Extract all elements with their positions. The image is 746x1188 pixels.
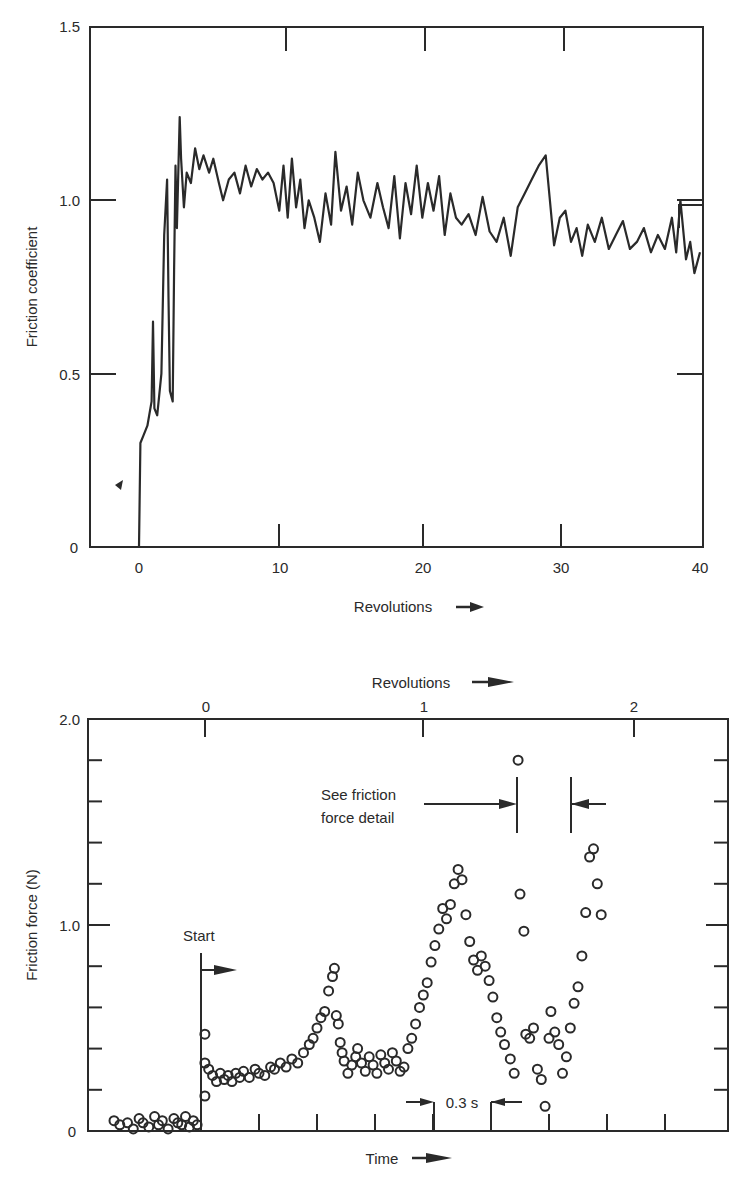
top-plot-frame bbox=[90, 27, 703, 547]
scatter-marker bbox=[577, 951, 586, 960]
scatter-marker bbox=[574, 982, 583, 991]
scatter-marker bbox=[597, 910, 606, 919]
top-x-tick-0: 0 bbox=[135, 559, 143, 576]
top-x-ticks bbox=[279, 27, 564, 547]
scatter-marker bbox=[492, 1013, 501, 1022]
top-x-tick-40: 40 bbox=[692, 559, 709, 576]
scatter-marker bbox=[550, 1028, 559, 1037]
scatter-marker bbox=[442, 914, 451, 923]
scatter-marker bbox=[566, 1024, 575, 1033]
scatter-marker bbox=[446, 900, 455, 909]
bottom-y-tick-1.0: 1.0 bbox=[59, 917, 80, 934]
bottom-rev-axis-label: Revolutions bbox=[372, 674, 450, 691]
detail-arrow-right-icon bbox=[499, 799, 517, 809]
scatter-marker bbox=[313, 1024, 322, 1033]
friction-coefficient-chart: 1.5 1.0 0.5 0 0 10 20 30 40 Friction coe… bbox=[23, 18, 708, 615]
scatter-marker bbox=[411, 1019, 420, 1028]
bottom-time-ticks bbox=[259, 1114, 665, 1131]
scatter-marker bbox=[500, 1040, 509, 1049]
top-x-arrow-icon bbox=[456, 602, 484, 612]
scatter-marker bbox=[485, 976, 494, 985]
scatter-marker bbox=[427, 958, 436, 967]
figure-canvas: 1.5 1.0 0.5 0 0 10 20 30 40 Friction coe… bbox=[0, 0, 746, 1188]
start-arrow-icon bbox=[201, 965, 237, 975]
scatter-marker bbox=[403, 1044, 412, 1053]
bottom-rev-tick-0: 0 bbox=[202, 698, 210, 715]
scatter-marker bbox=[334, 1019, 343, 1028]
scatter-marker bbox=[164, 1124, 173, 1133]
origin-marker-icon bbox=[115, 480, 123, 490]
scatter-marker bbox=[554, 1040, 563, 1049]
start-label: Start bbox=[183, 927, 216, 944]
scatter-marker bbox=[430, 941, 439, 950]
scatter-marker bbox=[245, 1073, 254, 1082]
scatter-marker bbox=[514, 756, 523, 765]
scatter-marker bbox=[481, 962, 490, 971]
bottom-rev-tick-2: 2 bbox=[630, 698, 638, 715]
top-x-tick-20: 20 bbox=[415, 559, 432, 576]
top-y-tick-1.0: 1.0 bbox=[59, 192, 80, 209]
scatter-marker bbox=[407, 1034, 416, 1043]
scatter-marker bbox=[519, 927, 528, 936]
top-y-tick-0.5: 0.5 bbox=[59, 366, 80, 383]
detail-label-line1: See friction bbox=[321, 786, 396, 803]
scatter-marker bbox=[570, 999, 579, 1008]
scatter-marker bbox=[510, 1069, 519, 1078]
top-x-axis-label: Revolutions bbox=[354, 598, 432, 615]
scatter-marker bbox=[477, 951, 486, 960]
scatter-marker bbox=[454, 865, 463, 874]
scatter-marker bbox=[372, 1069, 381, 1078]
detail-arrow-left-icon bbox=[571, 799, 589, 809]
bottom-top-ticks bbox=[205, 719, 634, 737]
scatter-marker bbox=[589, 844, 598, 853]
bottom-y-tick-2.0: 2.0 bbox=[59, 711, 80, 728]
scatter-marker bbox=[558, 1069, 567, 1078]
time-arrow-icon bbox=[412, 1153, 452, 1163]
friction-force-chart: 2.0 1.0 0 0 1 2 Revolutions Friction for… bbox=[23, 674, 728, 1167]
bottom-y-axis-label: Friction force (N) bbox=[23, 869, 40, 981]
scatter-marker bbox=[458, 875, 467, 884]
top-y-tick-1.5: 1.5 bbox=[59, 18, 80, 35]
scatter-marker bbox=[434, 925, 443, 934]
scatter-marker bbox=[260, 1071, 269, 1080]
rev-arrow-icon bbox=[472, 677, 514, 687]
scatter-marker bbox=[423, 978, 432, 987]
scatter-marker bbox=[299, 1048, 308, 1057]
bottom-rev-tick-1: 1 bbox=[420, 698, 428, 715]
scatter-marker bbox=[129, 1124, 138, 1133]
scatter-marker bbox=[546, 1007, 555, 1016]
top-y-tick-0: 0 bbox=[70, 539, 78, 556]
top-x-tick-10: 10 bbox=[272, 559, 289, 576]
scatter-marker bbox=[529, 1024, 538, 1033]
scatter-marker bbox=[415, 1003, 424, 1012]
top-y-ticks bbox=[90, 200, 703, 374]
interval-label: 0.3 s bbox=[446, 1094, 479, 1111]
scatter-marker bbox=[488, 993, 497, 1002]
scatter-marker bbox=[496, 1028, 505, 1037]
scatter-marker bbox=[419, 991, 428, 1000]
scatter-marker bbox=[516, 890, 525, 899]
top-y-axis-label: Friction coefficient bbox=[23, 226, 40, 347]
scatter-marker bbox=[541, 1102, 550, 1111]
friction-coefficient-line bbox=[139, 117, 700, 547]
top-x-tick-30: 30 bbox=[553, 559, 570, 576]
scatter-marker bbox=[506, 1054, 515, 1063]
bottom-y-tick-0: 0 bbox=[68, 1123, 76, 1140]
scatter-marker bbox=[581, 908, 590, 917]
scatter-marker bbox=[461, 910, 470, 919]
detail-label-line2: force detail bbox=[321, 809, 394, 826]
interval-arrow-left-icon bbox=[491, 1098, 505, 1106]
scatter-marker bbox=[593, 879, 602, 888]
scatter-marker bbox=[361, 1067, 370, 1076]
scatter-marker bbox=[336, 1038, 345, 1047]
scatter-marker bbox=[465, 937, 474, 946]
bottom-time-axis-label: Time bbox=[366, 1150, 399, 1167]
scatter-marker bbox=[533, 1065, 542, 1074]
scatter-marker bbox=[562, 1052, 571, 1061]
scatter-marker bbox=[324, 986, 333, 995]
scatter-marker bbox=[537, 1075, 546, 1084]
interval-arrow-right-icon bbox=[420, 1098, 434, 1106]
